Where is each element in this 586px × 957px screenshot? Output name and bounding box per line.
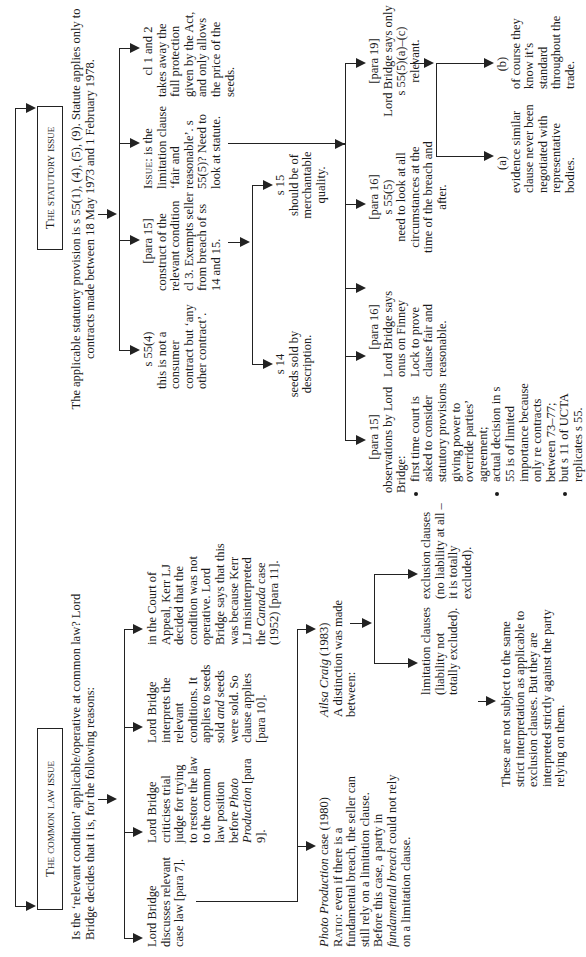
common-law-issue-box: The common law issue <box>37 728 63 910</box>
para19-connector <box>345 63 346 121</box>
item-b-node: (b) of course they know it’s standard th… <box>496 0 578 89</box>
list-item: but s 11 of UCTA replicates s 55. <box>558 381 585 482</box>
arrow-icon <box>133 934 143 944</box>
node-heading: [para 15] <box>368 381 382 493</box>
item-a-node: (a) evidence similar clause never been n… <box>496 93 578 193</box>
node-subheading: s 55(5) <box>382 137 396 257</box>
s55-4-node: s 55(4) this is not a consumer contract … <box>142 301 210 397</box>
arrow-icon <box>130 236 140 246</box>
node-heading: (a) <box>496 133 510 193</box>
case-name: Ailsa Craig <box>317 659 331 717</box>
ratio-label: Ratio: <box>331 913 345 947</box>
case-name: Canada <box>254 587 268 627</box>
statutory-branch-bar <box>119 48 120 351</box>
arrow-icon <box>263 360 273 370</box>
node-text: in the Court of Appeal, Kerr LJ decided … <box>145 543 268 645</box>
ab-bar <box>436 63 437 157</box>
node-heading: [para 19] <box>368 5 382 117</box>
arrow-icon <box>26 902 36 912</box>
emphasis: and <box>213 700 227 719</box>
s15-node: s 15 should be of merchantable quality. <box>274 137 328 233</box>
ailsa-craig-node: Ailsa Craig (1983) A distinction was mad… <box>318 587 359 717</box>
issue-stem <box>228 143 346 144</box>
issue-node: Issue: is the limitation clause ‘fair an… <box>142 97 224 189</box>
root-trunk-line <box>15 109 16 907</box>
emphasis: fundamental breach <box>385 847 399 947</box>
arrow-icon <box>263 181 273 191</box>
issue-branch-bar <box>345 121 346 441</box>
list-item: first time court is asked to consider st… <box>409 381 491 482</box>
node-text: Lord Bridge says onus on Finney Lock to … <box>382 277 450 377</box>
case-name: Photo Production <box>317 858 331 947</box>
para15-observations-node: [para 15] observations by Lord Bridge: f… <box>368 381 586 493</box>
node-text: A distinction was made between: <box>331 600 359 717</box>
para15-construct-node: [para 15] construct of the relevant cond… <box>142 191 224 291</box>
issue-label: Issue: <box>141 158 155 189</box>
drop-line <box>436 63 488 64</box>
arrow-icon <box>408 659 418 669</box>
arrow-icon <box>306 625 316 635</box>
photo-ailsa-bar <box>297 630 298 902</box>
drop-line <box>374 574 412 575</box>
arrow-icon <box>335 140 345 150</box>
node-text: this is not a consumer contract but ‘any… <box>156 301 210 397</box>
para16-onus-node: [para 16] Lord Bridge says onus on Finne… <box>368 277 450 377</box>
lim-excl-bar <box>374 574 375 664</box>
list-item: actual decision in s 55 is of limited im… <box>490 381 558 482</box>
discusses-stem <box>196 901 298 902</box>
discusses-hook <box>196 901 197 902</box>
arrow-icon <box>356 59 366 69</box>
arrow-icon <box>424 59 434 69</box>
node-text: Lord Bridge says only s 55(5)(a)–(c) rel… <box>382 5 423 117</box>
limitation-clauses-node: limitation clauses (liability not totall… <box>420 603 461 695</box>
case-year: (1983) <box>317 623 331 659</box>
drop-line <box>374 663 412 664</box>
arrow-icon <box>130 44 140 54</box>
arrow-icon <box>486 697 496 707</box>
drop-line <box>436 156 488 157</box>
para19-node: [para 19] Lord Bridge says only s 55(5)(… <box>368 5 422 117</box>
node-heading: s 55(4) <box>142 301 156 397</box>
node-heading: [para 16] <box>368 277 382 377</box>
arrow-icon <box>356 352 366 362</box>
arrow-icon <box>408 570 418 580</box>
node-heading: (b) <box>496 39 510 89</box>
node-heading: [para 15] <box>142 191 156 291</box>
s14-node: s 14 seeds sold by description. <box>274 316 315 412</box>
arrow-icon <box>133 828 143 838</box>
arrow-icon <box>133 625 143 635</box>
arrow-icon <box>306 842 316 852</box>
cl12-node: cl 1 and 2 takes away the full protectio… <box>142 5 237 97</box>
arrow-icon <box>356 436 366 446</box>
node-text: of course they know it’s standard throug… <box>510 0 578 89</box>
arrow-icon <box>362 619 372 629</box>
arrow-icon <box>107 795 117 805</box>
arrow-icon <box>356 284 366 294</box>
criticises-node: Lord Bridge criticises trial judge for t… <box>146 753 268 843</box>
node-text: seeds sold by description. <box>288 316 315 412</box>
arrow-icon <box>356 200 366 210</box>
discusses-node: Lord Bridge discusses relevant case law … <box>146 855 187 947</box>
statutory-issue-box: The statutory issue <box>37 106 63 250</box>
observations-list: first time court is asked to consider st… <box>409 381 586 493</box>
photo-production-node: Photo Production case (1980) Ratio: even… <box>318 771 413 947</box>
arrow-icon <box>240 238 250 248</box>
interprets-node: Lord Bridge interprets the relevant cond… <box>146 653 268 743</box>
node-text: construct of the relevant condition cl 3… <box>156 191 224 291</box>
node-heading: [para 16] <box>368 137 382 257</box>
arrow-icon <box>26 104 36 114</box>
node-heading: cl 1 and 2 <box>142 5 156 97</box>
node-text: should be of merchantable quality. <box>288 137 329 233</box>
arrow-icon <box>133 723 143 733</box>
node-heading: s 14 <box>274 316 288 412</box>
arrow-icon <box>484 152 494 162</box>
arrow-icon <box>130 346 140 356</box>
arrow-icon <box>107 210 117 220</box>
case-year: case (1980) <box>317 797 331 858</box>
arrow-icon <box>130 139 140 149</box>
node-text: observations by Lord Bridge: <box>382 381 409 493</box>
statutory-intro: The applicable statutory provision is s … <box>70 8 97 410</box>
node-heading: s 15 <box>274 137 288 233</box>
court-of-appeal-node: in the Court of Appeal, Kerr LJ decided … <box>146 543 282 645</box>
